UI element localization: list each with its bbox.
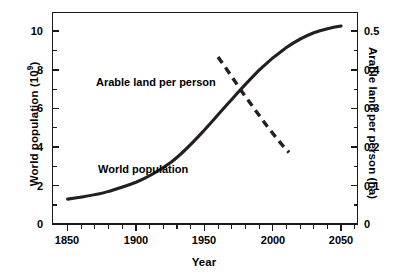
xtick-label-1900: 1900 [124,234,148,246]
y-axis-title-left: World population (109) [26,29,40,219]
xtick-label-1950: 1950 [192,234,216,246]
xtick-label-2050: 2050 [329,234,353,246]
annotation-arable-land-per-person: Arable land per person [96,76,216,88]
ytick-label-right-0: 0 [364,218,370,230]
annotation-world-population: World population [98,163,188,175]
y-axis-title-right: Arable land per person (ha) [367,28,379,218]
x-minor-ticks [81,224,355,228]
ytick-label-left-0: 0 [10,218,43,230]
x-axis-title: Year [0,256,408,268]
chart-figure: 0 2 4 6 8 10 0 0.1 0.2 0.3 0.4 0.5 1850 … [0,0,408,279]
xtick-label-1850: 1850 [55,234,79,246]
xtick-label-2000: 2000 [261,234,285,246]
